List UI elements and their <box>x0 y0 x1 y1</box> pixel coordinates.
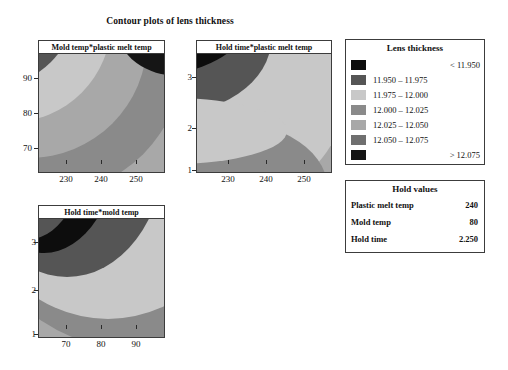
ytick-mark-p2-1 <box>192 170 196 171</box>
legend-row: 12.050 – 12.075 <box>350 133 482 147</box>
hold-name-1: Mold temp <box>351 217 391 227</box>
xtick-label-p2-240: 240 <box>253 175 279 184</box>
legend-swatch-4 <box>350 119 367 131</box>
legend-title: Lens thickness <box>346 43 484 53</box>
contour-panel-mold-temp-vs-plastic-melt-temp: Mold temp*plastic melt temp <box>38 40 165 173</box>
ytick-mark-p1-90 <box>34 78 38 79</box>
legend-label-1: 11.950 – 11.975 <box>369 75 484 85</box>
ytick-label-p1-70: 70 <box>10 144 32 153</box>
plot-area-1 <box>38 53 165 173</box>
ytick-mark-p2-3 <box>192 77 196 78</box>
ytick-mark-p2-2 <box>192 128 196 129</box>
page-title: Contour plots of lens thickness <box>0 16 340 26</box>
hold-values-box: Hold values Plastic melt temp 240 Mold t… <box>345 180 485 253</box>
xtick-label-p3-70: 70 <box>53 340 79 349</box>
contour-bands-1 <box>39 54 164 172</box>
panel-title-1: Mold temp*plastic melt temp <box>38 40 165 54</box>
legend-label-6: > 12.075 <box>369 150 480 160</box>
xtick-mark-p2-230 <box>228 160 229 164</box>
hold-value-0: 240 <box>465 200 478 210</box>
legend-swatch-6 <box>350 149 367 161</box>
contour-panel-hold-time-vs-mold-temp: Hold time*mold temp <box>38 205 165 338</box>
ytick-mark-p3-1 <box>34 334 38 335</box>
legend-row: 12.025 – 12.050 <box>350 118 482 132</box>
ytick-mark-p3-3 <box>34 242 38 243</box>
legend-swatch-2 <box>350 89 367 101</box>
xtick-mark-p1-250 <box>136 160 137 164</box>
legend-label-3: 12.000 – 12.025 <box>369 105 484 115</box>
xtick-label-p1-240: 240 <box>88 175 114 184</box>
legend-swatch-3 <box>350 104 367 116</box>
ytick-mark-p1-80 <box>34 113 38 114</box>
ytick-label-p3-1: 1 <box>14 330 36 339</box>
plot-area-3 <box>38 218 165 338</box>
contour-bands-2 <box>197 54 331 172</box>
legend-label-0: < 11.950 <box>369 60 480 70</box>
xtick-mark-p3-80 <box>101 325 102 329</box>
ytick-label-p2-1: 1 <box>170 166 192 175</box>
legend-label-4: 12.025 – 12.050 <box>369 120 484 130</box>
hold-value-1: 80 <box>470 217 479 227</box>
xtick-mark-p2-250 <box>304 160 305 164</box>
hold-values-row: Hold time 2.250 <box>351 234 481 248</box>
legend-row: < 11.950 <box>350 58 482 72</box>
xtick-mark-p2-240 <box>266 160 267 164</box>
hold-values-row: Mold temp 80 <box>351 217 481 231</box>
xtick-label-p1-230: 230 <box>53 175 79 184</box>
xtick-label-p3-80: 80 <box>88 340 114 349</box>
ytick-label-p1-90: 90 <box>10 74 32 83</box>
ytick-label-p2-3: 3 <box>170 73 192 82</box>
ytick-label-p3-2: 2 <box>14 286 36 295</box>
ytick-label-p2-2: 2 <box>170 124 192 133</box>
xtick-mark-p3-90 <box>136 325 137 329</box>
contour-bands-3 <box>39 219 164 337</box>
hold-name-0: Plastic melt temp <box>351 200 414 210</box>
panel-title-3: Hold time*mold temp <box>38 205 165 219</box>
xtick-label-p2-230: 230 <box>215 175 241 184</box>
legend-swatch-1 <box>350 74 367 86</box>
xtick-label-p2-250: 250 <box>291 175 317 184</box>
xtick-mark-p3-70 <box>66 325 67 329</box>
xtick-label-p3-90: 90 <box>123 340 149 349</box>
hold-values-title: Hold values <box>346 184 484 194</box>
legend-row: 12.000 – 12.025 <box>350 103 482 117</box>
ytick-label-p1-80: 80 <box>10 109 32 118</box>
legend-row: 11.950 – 11.975 <box>350 73 482 87</box>
legend-label-2: 11.975 – 12.000 <box>369 90 484 100</box>
contour-panel-hold-time-vs-plastic-melt-temp: Hold time*plastic melt temp <box>196 40 332 173</box>
xtick-mark-p1-240 <box>101 160 102 164</box>
legend-swatch-5 <box>350 134 367 146</box>
panel-title-2: Hold time*plastic melt temp <box>196 40 332 54</box>
legend-lens-thickness: Lens thickness < 11.950 11.950 – 11.975 … <box>345 39 485 165</box>
legend-swatch-0 <box>350 59 367 71</box>
hold-values-row: Plastic melt temp 240 <box>351 200 481 214</box>
plot-area-2 <box>196 53 332 173</box>
ytick-label-p3-3: 3 <box>14 238 36 247</box>
legend-label-5: 12.050 – 12.075 <box>369 135 484 145</box>
legend-row: > 12.075 <box>350 148 482 162</box>
xtick-label-p1-250: 250 <box>123 175 149 184</box>
ytick-mark-p1-70 <box>34 148 38 149</box>
ytick-mark-p3-2 <box>34 290 38 291</box>
hold-name-2: Hold time <box>351 234 387 244</box>
legend-row: 11.975 – 12.000 <box>350 88 482 102</box>
hold-value-2: 2.250 <box>459 234 478 244</box>
xtick-mark-p1-230 <box>66 160 67 164</box>
